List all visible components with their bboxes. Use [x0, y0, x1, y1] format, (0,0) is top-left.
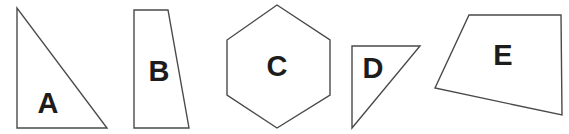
- shape-group-e[interactable]: E: [435, 15, 562, 115]
- shape-label-b: B: [149, 55, 170, 87]
- shape-group-c[interactable]: C: [227, 5, 330, 128]
- shape-diagram: A B C D E: [0, 0, 569, 134]
- shape-group-b[interactable]: B: [134, 10, 189, 128]
- shape-label-a: A: [38, 87, 59, 119]
- shape-label-e: E: [493, 39, 512, 71]
- shape-label-c: C: [267, 50, 288, 82]
- triangle-a-outline[interactable]: [17, 8, 107, 128]
- shapes-canvas: A B C D E: [0, 0, 569, 134]
- shape-group-d[interactable]: D: [352, 46, 420, 128]
- shape-label-d: D: [363, 52, 384, 84]
- shape-group-a[interactable]: A: [17, 8, 107, 128]
